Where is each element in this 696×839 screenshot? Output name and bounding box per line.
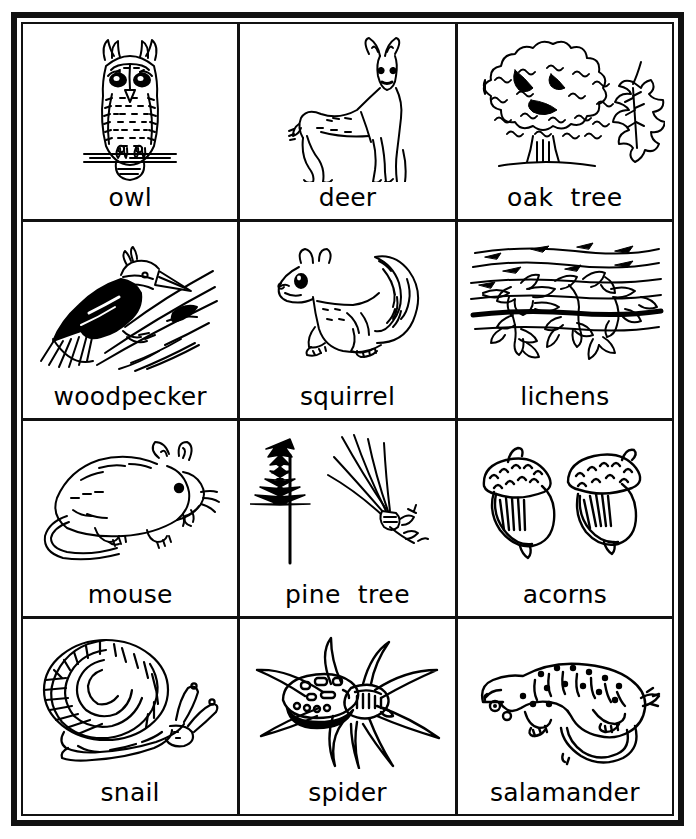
woodpecker-icon (23, 222, 237, 383)
mouse-icon (23, 421, 237, 582)
spider-icon (240, 619, 454, 780)
card-label: oak tree (458, 185, 672, 219)
card-label: spider (240, 780, 454, 814)
oak-tree-icon (458, 24, 672, 185)
card-deer[interactable]: deer (240, 24, 454, 219)
owl-icon (23, 24, 237, 185)
worksheet-page: owl (0, 0, 696, 839)
card-salamander[interactable]: salamander (458, 619, 672, 814)
card-label: owl (23, 185, 237, 219)
card-label: lichens (458, 384, 672, 418)
card-spider[interactable]: spider (240, 619, 454, 814)
lichens-icon (458, 222, 672, 383)
pine-tree-icon (240, 421, 454, 582)
card-label: squirrel (240, 384, 454, 418)
snail-icon (23, 619, 237, 780)
card-woodpecker[interactable]: woodpecker (23, 222, 237, 417)
card-label: woodpecker (23, 384, 237, 418)
card-oak-tree[interactable]: oak tree (458, 24, 672, 219)
picture-card-grid: owl (23, 24, 672, 814)
card-lichens[interactable]: lichens (458, 222, 672, 417)
salamander-icon (458, 619, 672, 780)
card-owl[interactable]: owl (23, 24, 237, 219)
squirrel-icon (240, 222, 454, 383)
card-squirrel[interactable]: squirrel (240, 222, 454, 417)
card-label: salamander (458, 780, 672, 814)
card-mouse[interactable]: mouse (23, 421, 237, 616)
outer-border: owl (11, 12, 684, 826)
card-label: acorns (458, 582, 672, 616)
card-acorns[interactable]: acorns (458, 421, 672, 616)
card-label: deer (240, 185, 454, 219)
card-pine-tree[interactable]: pine tree (240, 421, 454, 616)
card-label: pine tree (240, 582, 454, 616)
card-label: mouse (23, 582, 237, 616)
card-label: snail (23, 780, 237, 814)
acorns-icon (458, 421, 672, 582)
inner-border: owl (21, 22, 674, 816)
card-snail[interactable]: snail (23, 619, 237, 814)
deer-icon (240, 24, 454, 185)
